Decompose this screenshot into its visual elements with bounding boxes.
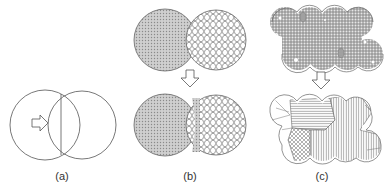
- panel-b-before: [134, 9, 246, 71]
- panel-label-b: (b): [183, 170, 196, 182]
- down-arrow-icon: [312, 72, 330, 89]
- down-arrow-icon: [181, 70, 199, 87]
- grain-horizontal: [290, 98, 335, 130]
- panel-b-after: [134, 94, 246, 156]
- right-arrow-icon: [32, 115, 48, 131]
- panel-c-after: [265, 90, 388, 170]
- diagram-canvas: [0, 0, 388, 190]
- panel-label-a: (a): [55, 170, 68, 182]
- cellular-grain: [186, 10, 246, 70]
- panel-c-before: [265, 0, 388, 75]
- panel-label-c: (c): [316, 170, 329, 182]
- panel-a: [10, 90, 116, 160]
- pore: [338, 48, 344, 58]
- particle-right: [48, 91, 116, 159]
- pore: [300, 12, 306, 22]
